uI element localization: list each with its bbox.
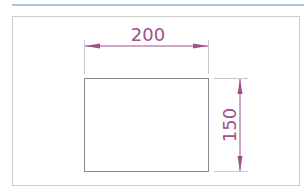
width-dimension-label: 200	[131, 24, 165, 45]
rectangle-shape	[85, 79, 209, 172]
drawing-canvas: 200 150	[0, 0, 304, 194]
height-dimension-label: 150	[219, 108, 240, 142]
